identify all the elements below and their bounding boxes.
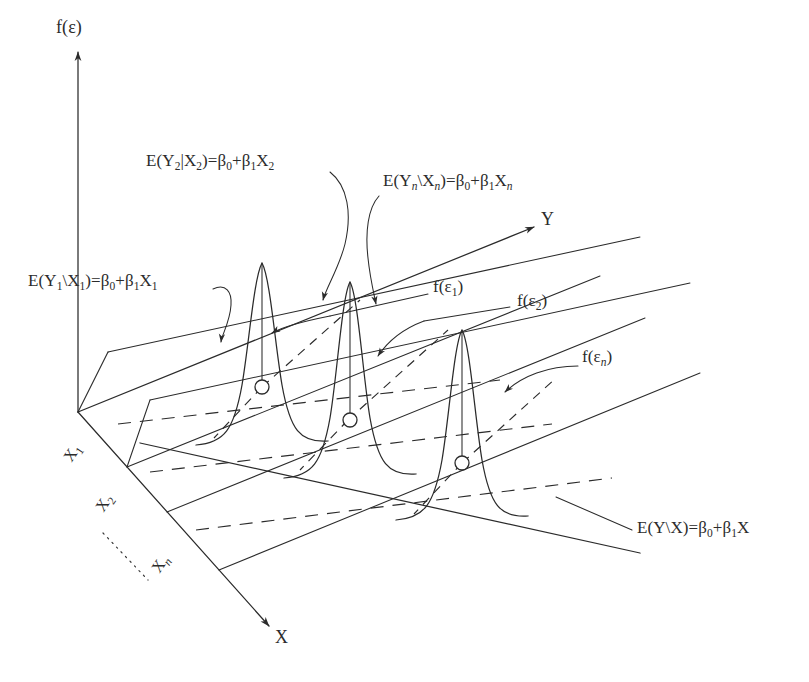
callout-arrow-cond-mean-1 [213,287,231,342]
base-plane-group [127,276,700,570]
annotation-cond-mean-1: E(Y1\X1)=β0+β1X1 [28,272,158,292]
y-axis-line [78,227,534,412]
x-axis-label: X [275,628,288,648]
population-regression-line [140,443,640,553]
plane-second-drop [127,400,150,467]
callout-leader-density-2 [424,307,510,321]
dashed-base-line-2 [150,424,552,472]
annotation-density-1-text: f(ε1) [433,277,463,296]
dashed-base-line-3 [196,478,612,530]
annotation-density-2: f(ε2) [517,292,547,312]
annotation-cond-mean-1-text: E(Y1\X1)=β0+β1X1 [28,271,158,290]
annotation-cond-mean-n: E(Yn\Xn)=β0+β1Xn [383,172,513,192]
mean-marker-2 [343,413,357,427]
figure-canvas [0,0,809,682]
dashed-diagonal-2 [348,330,448,420]
mean-marker-1 [255,380,269,394]
annotation-population-line: E(Y\X)=β0+β1X [637,519,749,539]
dashed-diagonal-1b [214,387,262,438]
ellipsis-group [103,533,148,580]
dashed-diagonal-3b [414,463,462,514]
mean-marker-3 [455,456,469,470]
callout-arrow-cond-mean-n [367,196,379,304]
annotation-cond-mean-n-text: E(Yn\Xn)=β0+β1Xn [383,171,513,190]
callout-leader-population-line [556,497,632,530]
callout-arrow-cond-mean-2 [323,172,348,300]
dashed-projection-group [118,300,612,530]
y-axis-label: Y [541,210,554,230]
annotation-density-2-text: f(ε2) [517,291,547,310]
regression-error-distribution-figure: f(ε) Y X X1 X2 Xn E(Y1\X1)=β0+β1X1 E(Y2|… [0,0,809,682]
x-axis-line [78,412,269,626]
plane-left-drop [78,352,108,412]
density-curve-1 [196,263,328,445]
annotation-population-line-text: E(Y\X)=β0+β1X [637,518,749,537]
tick-ellipsis-dots [103,533,148,580]
annotation-density-1: f(ε1) [433,278,463,298]
plane-line-xn [219,373,700,570]
annotation-density-n-text: f(εn) [582,347,612,366]
callout-group [213,172,632,530]
annotation-cond-mean-2: E(Y2|X2)=β0+β1X2 [146,152,274,172]
annotation-density-n: f(εn) [582,348,612,368]
annotation-cond-mean-2-text: E(Y2|X2)=β0+β1X2 [146,151,274,170]
density-axis-label: f(ε) [56,18,82,38]
regression-line-group [140,443,640,553]
dashed-base-line-1 [118,380,500,424]
callout-arrow-density-2 [378,321,424,356]
callout-arrow-density-1 [272,316,330,333]
